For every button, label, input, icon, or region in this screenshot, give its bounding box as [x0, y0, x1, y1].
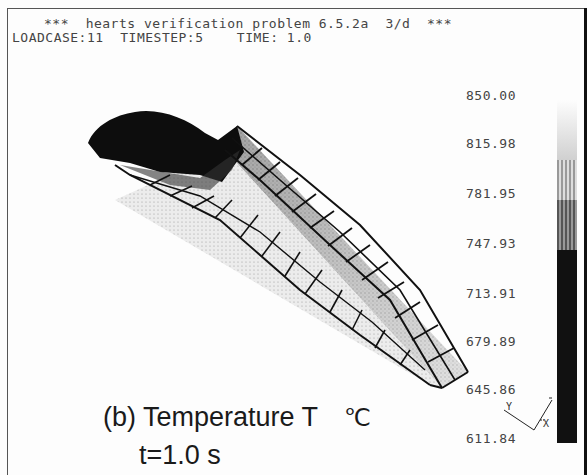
figure-caption-line2: t=1.0 s [139, 440, 221, 471]
legend-level-1: 850.00 [466, 88, 516, 103]
legend-level-3: 781.95 [466, 186, 516, 201]
axis-label-x: X [543, 418, 549, 429]
legend-level-2: 815.98 [466, 136, 516, 151]
legend-level-5: 713.91 [466, 286, 516, 301]
caption-title: (b) Temperature T [103, 402, 318, 432]
legend-level-7: 645.86 [466, 382, 516, 397]
color-bar-segment-light [557, 160, 577, 200]
figure-caption-line1: (b) Temperature T℃ [103, 402, 371, 433]
color-bar-segment-dark [557, 250, 577, 443]
legend-level-4: 747.93 [466, 236, 516, 251]
axis-label-y: Y [506, 401, 512, 412]
color-bar-segment-white [557, 100, 577, 160]
color-bar-segment-mid [557, 200, 577, 250]
caption-unit: ℃ [344, 404, 371, 431]
legend-level-8: 611.84 [466, 431, 516, 446]
legend-level-6: 679.89 [466, 334, 516, 349]
